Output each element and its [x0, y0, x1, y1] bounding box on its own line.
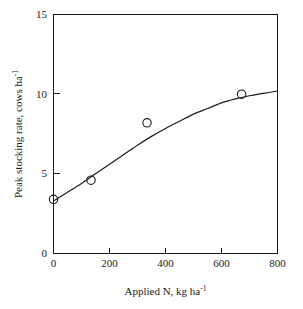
x-tick-label-200: 200	[101, 257, 118, 269]
x-tick-label-800: 800	[269, 257, 286, 269]
y-tick-label-15: 15	[36, 8, 48, 20]
y-axis-tick-labels: 0 5 10 15	[36, 8, 48, 259]
x-axis-title-superscript: -1	[200, 284, 206, 293]
y-axis-title: Peak stocking rate, cows ha-1	[11, 70, 24, 198]
data-point-group	[49, 90, 246, 204]
x-tick-label-0: 0	[51, 257, 57, 269]
x-axis-title: Applied N, kg ha-1	[124, 284, 206, 297]
plot-frame	[54, 15, 278, 254]
x-tick-label-600: 600	[213, 257, 230, 269]
y-axis-ticks	[54, 15, 60, 254]
fitted-curve	[54, 91, 278, 201]
data-point	[143, 119, 151, 127]
chart-figure: 0 5 10 15 0 200 400 600 800 Applied N, k…	[0, 0, 303, 309]
x-axis-ticks	[54, 248, 278, 254]
y-tick-label-5: 5	[42, 167, 48, 179]
x-tick-label-400: 400	[157, 257, 174, 269]
y-axis-title-main: Peak stocking rate, cows ha	[12, 76, 24, 198]
y-axis-title-superscript: -1	[11, 70, 20, 76]
y-tick-label-10: 10	[36, 88, 48, 100]
y-tick-label-0: 0	[42, 247, 48, 259]
plot-area: 0 5 10 15 0 200 400 600 800 Applied N, k…	[0, 0, 303, 309]
x-axis-tick-labels: 0 200 400 600 800	[51, 257, 287, 269]
x-axis-title-main: Applied N, kg ha	[124, 285, 200, 297]
